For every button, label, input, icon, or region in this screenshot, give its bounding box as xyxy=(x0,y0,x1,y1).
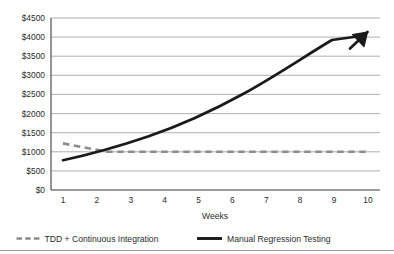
xtick-label-6: 6 xyxy=(230,195,235,205)
x-axis-title: Weeks xyxy=(202,211,228,221)
ytick-label-2500: $2500 xyxy=(22,89,46,99)
xtick-label-10: 10 xyxy=(363,195,373,205)
xtick-label-1: 1 xyxy=(61,195,66,205)
chart-legend: TDD + Continuous Integration Manual Regr… xyxy=(17,234,331,244)
xtick-label-3: 3 xyxy=(128,195,133,205)
xtick-label-8: 8 xyxy=(298,195,303,205)
series-arrowhead-manual-regression-testing xyxy=(350,32,368,49)
ytick-label-4500: $4500 xyxy=(22,13,46,23)
ytick-label-1000: $1000 xyxy=(22,147,46,157)
ytick-label-0: $0 xyxy=(36,185,46,195)
series-line-manual-regression-testing xyxy=(63,36,365,161)
ytick-label-1500: $1500 xyxy=(22,128,46,138)
line-chart: $4500 $4000 $3500 $3000 $2500 $2000 $150… xyxy=(0,0,394,254)
xtick-label-9: 9 xyxy=(332,195,337,205)
ytick-label-4000: $4000 xyxy=(22,32,46,42)
y-axis-tick-labels: $4500 $4000 $3500 $3000 $2500 $2000 $150… xyxy=(22,13,46,195)
legend-item-tdd-continuous-integration: TDD + Continuous Integration xyxy=(17,234,159,244)
legend-label-manual-regression-testing: Manual Regression Testing xyxy=(227,234,331,244)
legend-item-manual-regression-testing: Manual Regression Testing xyxy=(197,234,331,244)
x-axis-tick-labels: 1 2 3 4 5 6 7 8 9 10 xyxy=(61,195,373,205)
ytick-label-3500: $3500 xyxy=(22,51,46,61)
ytick-label-2000: $2000 xyxy=(22,109,46,119)
legend-label-tdd-continuous-integration: TDD + Continuous Integration xyxy=(45,234,159,244)
xtick-label-5: 5 xyxy=(196,195,201,205)
ytick-label-500: $500 xyxy=(26,166,45,176)
xtick-label-2: 2 xyxy=(95,195,100,205)
xtick-label-7: 7 xyxy=(264,195,269,205)
chart-container: $4500 $4000 $3500 $3000 $2500 $2000 $150… xyxy=(0,0,394,254)
xtick-label-4: 4 xyxy=(162,195,167,205)
ytick-label-3000: $3000 xyxy=(22,70,46,80)
